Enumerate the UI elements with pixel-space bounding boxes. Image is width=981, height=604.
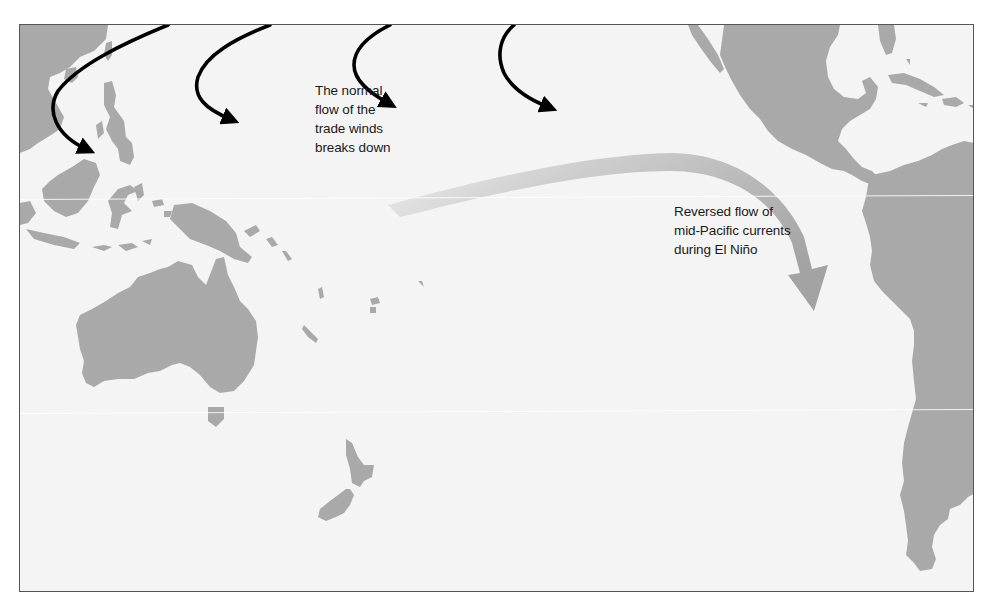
land-mexico xyxy=(720,25,878,185)
trade-winds-label-line: trade winds xyxy=(315,119,390,138)
pacific-map xyxy=(20,25,974,592)
trade-winds-label-line: The normal xyxy=(315,81,390,100)
trade-winds-label-line: flow of the xyxy=(315,100,390,119)
trade-winds-label: The normal flow of the trade winds break… xyxy=(315,81,390,157)
reversed-current-label-line: mid-Pacific currents xyxy=(674,221,791,240)
trade-wind-arrow-2 xyxy=(197,25,270,119)
trade-wind-arrows xyxy=(53,25,548,149)
reversed-current-label-line: during El Niño xyxy=(674,240,791,259)
map-frame: The normal flow of the trade winds break… xyxy=(19,24,974,592)
land-south-america xyxy=(862,141,974,571)
land-masses xyxy=(20,25,974,571)
land-new-zealand xyxy=(346,439,374,487)
reversed-current-label: Reversed flow of mid-Pacific currents du… xyxy=(674,202,791,259)
trade-wind-arrow-4 xyxy=(500,25,548,107)
reversed-current-label-line: Reversed flow of xyxy=(674,202,791,221)
trade-winds-label-line: breaks down xyxy=(315,138,390,157)
land-australia xyxy=(76,257,258,393)
